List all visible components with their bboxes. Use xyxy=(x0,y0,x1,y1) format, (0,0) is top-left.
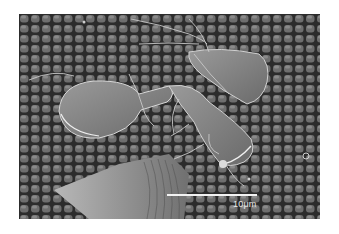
micrograph-illustration xyxy=(19,14,320,219)
micrograph: 10μm xyxy=(19,14,320,219)
scale-bar xyxy=(167,194,257,196)
scale-bar-label: 10μm xyxy=(233,199,257,209)
debris xyxy=(219,160,227,168)
